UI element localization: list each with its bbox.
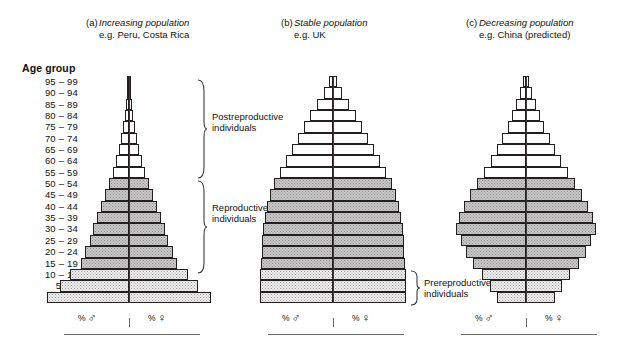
pyramid-bar-male	[466, 246, 526, 257]
pyramid-bar-male	[270, 189, 333, 200]
pyramid-bar-male	[70, 269, 129, 280]
brace-prereproductive	[409, 270, 421, 306]
pyramid-bar-male	[263, 223, 333, 234]
female-icon: ♀	[553, 311, 564, 325]
pyramid-bar-female	[333, 269, 406, 280]
pyramid-bar-female	[333, 235, 404, 246]
pyramid-bar-male	[109, 178, 129, 189]
axis-legend-c-male: %♂	[475, 313, 494, 323]
pyramid-bar-male	[317, 99, 333, 110]
pyramid-bar-male	[473, 258, 526, 269]
pyramid-bar-female	[129, 189, 153, 200]
pyramid-bar-male	[456, 223, 526, 234]
pyramid-bar-female	[333, 189, 396, 200]
axis-legend-a-female: %♀	[148, 313, 167, 323]
pyramid-bar-male	[81, 258, 129, 269]
pyramid-bar-female	[333, 258, 405, 269]
pyramid-bar-female	[333, 121, 362, 132]
pyramid-bar-male	[274, 178, 333, 189]
percent-symbol-female-c: %	[545, 313, 553, 323]
population-pyramid-figure: (a)Increasing population e.g. Peru, Cost…	[0, 0, 642, 352]
pyramid-bar-male	[324, 87, 333, 98]
panel-heading-b: Stable population	[294, 17, 367, 28]
pyramid-bar-female	[129, 167, 145, 178]
pyramid-bar-male	[101, 201, 129, 212]
annotation-reproductive: Reproductive individuals	[212, 202, 268, 224]
pyramid-bar-female	[333, 87, 342, 98]
pyramid-bar-female	[333, 280, 406, 291]
panel-heading-c: Decreasing population	[479, 17, 574, 28]
panel-label-a: (a)	[86, 17, 99, 29]
age-group-axis-title: Age group	[22, 62, 75, 74]
pyramid-bar-male	[105, 189, 129, 200]
axis-rule-b	[268, 334, 404, 335]
pyramid-bar-male	[260, 269, 333, 280]
axis-legend-c-female: %♀	[545, 313, 564, 323]
pyramid-bar-female	[333, 110, 356, 121]
pyramid-bar-female	[526, 155, 561, 166]
annotation-prereproductive: Prereproductive individuals	[424, 277, 491, 299]
pyramid-bar-female	[333, 155, 380, 166]
pyramid-bar-male	[491, 155, 526, 166]
percent-symbol-female-a: %	[148, 313, 156, 323]
brace-reproductive	[196, 180, 208, 274]
pyramid-bar-female	[333, 144, 374, 155]
pyramid-bar-male	[497, 292, 526, 303]
annotation-postreproductive-line2: individuals	[212, 122, 256, 133]
panel-title-a: (a)Increasing population e.g. Peru, Cost…	[86, 17, 189, 41]
pyramid-bar-male	[261, 258, 333, 269]
pyramid-bar-male	[97, 212, 129, 223]
panel-label-c: (c)	[466, 17, 479, 29]
pyramid-bar-male	[292, 144, 333, 155]
annotation-postreproductive: Postreproductive individuals	[212, 111, 283, 133]
pyramid-bar-female	[129, 246, 173, 257]
pyramid-bar-male	[310, 110, 333, 121]
annotation-prereproductive-line1: Prereproductive	[424, 277, 491, 288]
pyramid-bar-male	[119, 144, 129, 155]
pyramid-bar-female	[129, 178, 149, 189]
pyramid-bar-male	[502, 133, 526, 144]
pyramid-bar-male	[121, 133, 129, 144]
pyramid-bar-male	[116, 155, 129, 166]
panel-subtitle-b: e.g. UK	[281, 29, 367, 41]
pyramid-bar-male	[464, 201, 526, 212]
pyramid-bar-male	[461, 235, 526, 246]
pyramid-bar-female	[526, 121, 544, 132]
pyramid-bar-female	[526, 133, 550, 144]
panel-label-b: (b)	[281, 17, 294, 29]
pyramid-bar-female	[129, 155, 142, 166]
pyramid-bar-male	[304, 121, 333, 132]
axis-legend-a-male: %♂	[78, 313, 97, 323]
percent-symbol-male-c: %	[475, 313, 483, 323]
pyramid-bar-female	[526, 280, 562, 291]
pyramid-bar-male	[262, 246, 333, 257]
pyramid-bar-female	[129, 280, 198, 291]
male-icon: ♂	[483, 311, 494, 325]
pyramid-bar-female	[526, 167, 568, 178]
pyramid-bar-female	[526, 246, 586, 257]
pyramid-bar-male	[497, 144, 526, 155]
axis-tick-b	[333, 318, 334, 327]
pyramid-bar-male	[508, 121, 526, 132]
pyramid-bar-female	[526, 110, 540, 121]
pyramid-bar-male	[516, 99, 526, 110]
pyramid-bar-male	[265, 212, 333, 223]
pyramid-bar-female	[526, 178, 575, 189]
pyramid-a-midline	[129, 76, 130, 303]
pyramid-bar-male	[298, 133, 333, 144]
pyramid-bar-female	[526, 269, 570, 280]
axis-legend-b-female: %♀	[352, 313, 371, 323]
panel-title-b: (b)Stable population e.g. UK	[281, 17, 367, 41]
pyramid-bar-female	[333, 167, 386, 178]
panel-title-c: (c)Decreasing population e.g. China (pre…	[466, 17, 574, 41]
pyramid-bar-male	[260, 280, 333, 291]
pyramid-bar-female	[129, 223, 165, 234]
axis-legend-b-male: %♂	[282, 313, 301, 323]
pyramid-bar-female	[333, 133, 368, 144]
pyramid-bar-female	[129, 269, 188, 280]
pyramid-bar-male	[85, 246, 129, 257]
pyramid-bar-male	[286, 155, 333, 166]
axis-tick-c	[526, 318, 527, 327]
axis-rule-a	[64, 334, 200, 335]
pyramid-bar-male	[490, 280, 526, 291]
